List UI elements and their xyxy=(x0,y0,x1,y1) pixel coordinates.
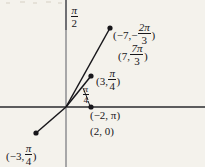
axis-label-pi-over-2: π 2 xyxy=(70,5,79,29)
polar-plot-figure: π 2 (−7,−2π3) (7,7π3) (3,π4) π 4 (−2, π)… xyxy=(0,0,205,167)
fraction-pi-over-2: π 2 xyxy=(71,5,79,29)
fraction-denominator: 3 xyxy=(130,55,143,66)
data-point-d xyxy=(33,130,38,135)
paren-close: ) xyxy=(144,50,148,62)
paren-close: ) xyxy=(151,29,155,41)
fraction-numerator: 2π xyxy=(138,22,151,34)
ray-to-point-d xyxy=(36,107,66,133)
fraction-numerator: 7π xyxy=(130,43,143,55)
fraction-pi-over-4: π4 xyxy=(25,143,33,167)
paren-close: ) xyxy=(116,75,120,87)
radius-value: −3, xyxy=(10,150,24,162)
fraction-numerator: π xyxy=(83,85,90,95)
point-d-label: (−3,π4) xyxy=(6,143,36,167)
radius-value: −7, xyxy=(117,29,131,41)
fraction-denominator: 4 xyxy=(25,155,33,166)
fraction-numerator: π xyxy=(25,143,33,155)
fraction-pi-over-4: π4 xyxy=(108,68,116,92)
point-c-alternate-label: (2, 0) xyxy=(90,126,114,137)
point-c-primary-label: (−2, π) xyxy=(90,110,120,121)
angle-label-pi-over-4: π 4 xyxy=(82,85,90,105)
paren-close: ) xyxy=(33,150,37,162)
radius-value: 3, xyxy=(100,75,108,87)
radius-value: 7, xyxy=(122,50,130,62)
fraction-7pi-over-3: 7π3 xyxy=(130,43,143,67)
point-a-alternate-label: (7,7π3) xyxy=(118,43,148,67)
fraction-pi-over-4: π 4 xyxy=(83,85,90,105)
fraction-denominator: 4 xyxy=(108,80,116,91)
data-point-b xyxy=(88,73,93,78)
fraction-numerator: π xyxy=(71,5,79,17)
point-b-label: (3,π4) xyxy=(96,68,120,92)
fraction-numerator: π xyxy=(108,68,116,80)
data-point-a xyxy=(107,25,112,30)
theta-sign: − xyxy=(131,29,137,41)
fraction-denominator: 4 xyxy=(83,95,90,104)
fraction-denominator: 2 xyxy=(71,17,79,28)
